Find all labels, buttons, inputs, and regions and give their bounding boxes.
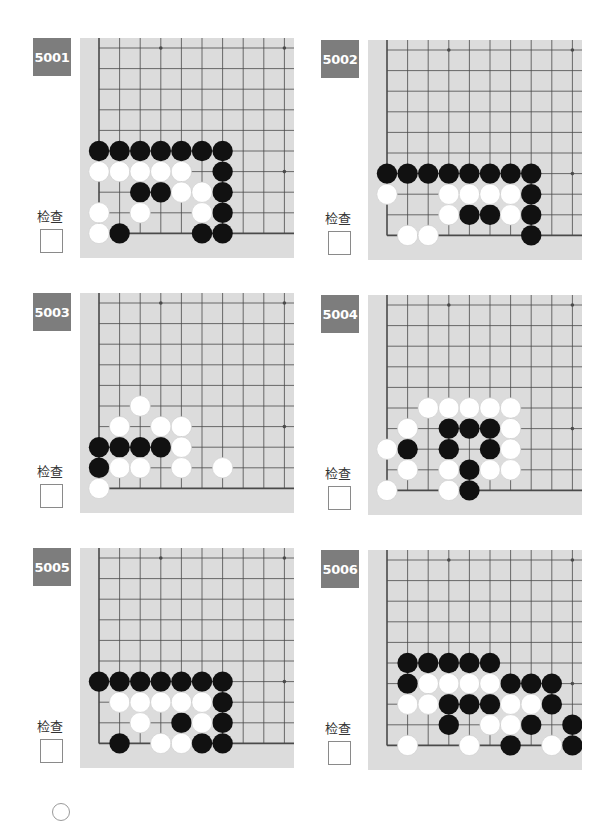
white-stone [171,437,191,457]
black-stone [130,182,150,202]
white-stone [151,416,171,436]
white-stone [521,694,541,714]
white-stone [171,458,191,478]
white-stone [480,715,500,735]
white-stone [418,694,438,714]
white-stone [542,735,562,755]
white-stone [109,416,129,436]
check-label: 检查 [325,718,351,737]
white-stone [151,692,171,712]
black-stone [439,715,459,735]
black-stone [521,205,541,225]
black-stone [151,141,171,161]
black-stone [418,653,438,673]
check-box[interactable] [40,739,63,763]
check-box[interactable] [40,484,63,508]
black-stone [109,223,129,243]
star-point [283,170,287,174]
black-stone [397,163,417,183]
white-stone [171,733,191,753]
white-stone [171,182,191,202]
go-board [80,38,294,258]
check-box[interactable] [328,741,351,765]
white-stone [500,398,520,418]
black-stone [377,163,397,183]
black-stone [500,735,520,755]
black-stone [192,733,212,753]
black-stone [212,141,232,161]
go-board [80,548,294,768]
white-stone [439,460,459,480]
black-stone [480,439,500,459]
white-stone [500,460,520,480]
black-stone [151,182,171,202]
problem-panel-5005: 5005 检查 [33,548,323,773]
black-stone [171,713,191,733]
white-stone [459,673,479,693]
white-stone [130,396,150,416]
black-stone [192,141,212,161]
white-stone [89,223,109,243]
black-stone [109,141,129,161]
problem-number-badge: 5001 [33,38,71,76]
black-stone [439,163,459,183]
black-stone [212,692,232,712]
problem-number-badge: 5006 [321,550,359,588]
black-stone [500,163,520,183]
star-point [283,46,287,50]
check-box[interactable] [328,486,351,510]
black-stone [397,439,417,459]
white-stone [130,458,150,478]
white-stone [377,480,397,500]
white-stone [439,184,459,204]
white-stone [89,478,109,498]
problem-number-badge: 5003 [33,293,71,331]
go-board [368,550,582,770]
black-stone [109,671,129,691]
black-stone [109,733,129,753]
star-point [283,425,287,429]
black-stone [109,437,129,457]
black-stone [562,715,582,735]
black-stone [212,182,232,202]
black-stone [439,418,459,438]
white-stone [377,184,397,204]
black-stone [192,671,212,691]
black-stone [562,735,582,755]
black-stone [459,460,479,480]
white-stone [500,418,520,438]
star-point [447,303,451,307]
white-stone [397,418,417,438]
black-stone [459,418,479,438]
white-stone [439,480,459,500]
black-stone [500,673,520,693]
black-stone [521,225,541,245]
white-stone [397,735,417,755]
black-stone [130,437,150,457]
black-stone [439,653,459,673]
black-stone [459,163,479,183]
white-stone [500,439,520,459]
white-stone [418,398,438,418]
white-stone [439,673,459,693]
white-stone [130,692,150,712]
black-stone [171,141,191,161]
white-stone [192,713,212,733]
white-stone [439,205,459,225]
star-point [283,301,287,305]
problem-panel-5003: 5003 检查 [33,293,323,518]
check-box[interactable] [40,229,63,253]
black-stone [521,673,541,693]
black-stone [459,694,479,714]
white-stone [151,161,171,181]
white-stone [500,715,520,735]
black-stone [542,694,562,714]
check-box[interactable] [328,231,351,255]
star-point [571,172,575,176]
star-point [283,556,287,560]
white-stone [109,692,129,712]
white-stone [418,225,438,245]
problem-panel-5006: 5006 检查 [321,550,611,775]
black-stone [397,673,417,693]
white-stone [480,673,500,693]
